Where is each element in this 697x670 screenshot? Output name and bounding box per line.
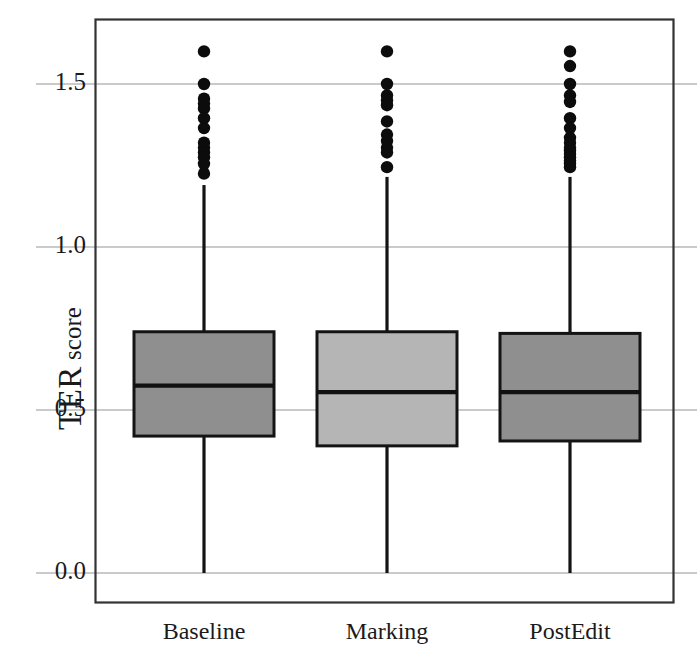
boxplot-canvas bbox=[0, 0, 697, 670]
outlier-postedit-15 bbox=[564, 161, 576, 173]
outlier-baseline-1 bbox=[198, 78, 210, 90]
x-category-label-postedit: PostEdit bbox=[470, 618, 670, 645]
boxplot-marking bbox=[317, 45, 457, 573]
outlier-baseline-12 bbox=[198, 167, 210, 179]
outlier-postedit-4 bbox=[564, 96, 576, 108]
box-series-group bbox=[134, 45, 640, 573]
y-tick-label-1.5: 1.5 bbox=[55, 68, 86, 96]
outlier-baseline-6 bbox=[198, 122, 210, 134]
outlier-marking-1 bbox=[381, 78, 393, 90]
boxplot-postedit bbox=[500, 45, 640, 573]
outlier-baseline-0 bbox=[198, 45, 210, 57]
outlier-marking-4 bbox=[381, 99, 393, 111]
outlier-marking-5 bbox=[381, 115, 393, 127]
ter-score-boxplot-figure: 0.00.51.01.5 BaselineMarkingPostEdit TER… bbox=[0, 0, 697, 670]
y-tick-label-1.0: 1.0 bbox=[55, 231, 86, 259]
outlier-marking-0 bbox=[381, 45, 393, 57]
box-postedit bbox=[500, 333, 640, 441]
y-tick-label-0.0: 0.0 bbox=[55, 557, 86, 585]
y-axis-title: TER score bbox=[52, 307, 89, 430]
outlier-marking-9 bbox=[381, 146, 393, 158]
x-category-label-marking: Marking bbox=[287, 618, 487, 645]
y-axis-title-main: TER bbox=[52, 366, 88, 430]
box-marking bbox=[317, 332, 457, 446]
y-axis-title-sub: score bbox=[59, 307, 86, 366]
gridlines-group bbox=[36, 84, 697, 573]
outlier-marking-10 bbox=[381, 161, 393, 173]
outlier-postedit-0 bbox=[564, 45, 576, 57]
outlier-postedit-2 bbox=[564, 78, 576, 90]
outlier-postedit-1 bbox=[564, 60, 576, 72]
boxplot-baseline bbox=[134, 45, 274, 573]
x-category-label-baseline: Baseline bbox=[104, 618, 304, 645]
